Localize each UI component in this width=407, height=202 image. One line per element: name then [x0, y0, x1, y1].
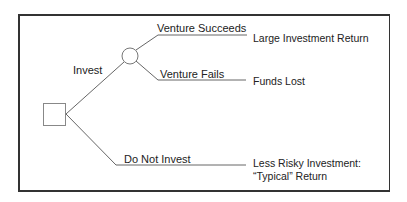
venture-succeeds-label: Venture Succeeds	[157, 22, 246, 34]
outcome-less-risky-line1: Less Risky Investment:	[253, 157, 361, 169]
venture-fails-label: Venture Fails	[160, 68, 224, 80]
outcome-less-risky-line2: “Typical” Return	[253, 170, 327, 182]
outcome-funds-lost: Funds Lost	[253, 75, 305, 87]
invest-label: Invest	[73, 64, 102, 76]
do-not-invest-label: Do Not Invest	[124, 153, 191, 165]
chance-node	[122, 48, 138, 64]
venture-succeeds-branch-line	[136, 35, 247, 50]
decision-node	[44, 104, 66, 126]
outcome-large-return: Large Investment Return	[253, 32, 369, 44]
